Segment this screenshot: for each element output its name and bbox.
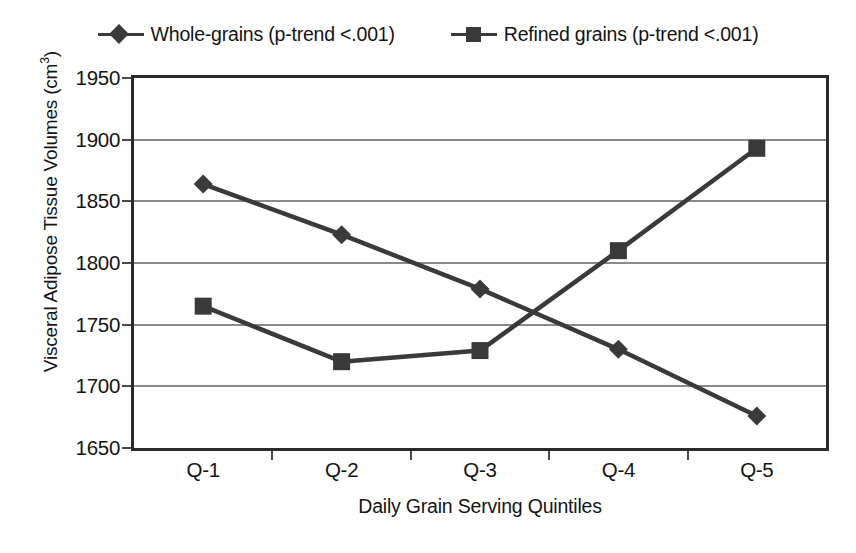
y-tick-mark-1900 [122, 139, 131, 141]
data-point-square [472, 342, 489, 359]
chart-legend: Whole-grains (p-trend <.001) Refined gra… [0, 14, 856, 54]
y-axis-title-superscript: 3 [38, 57, 52, 63]
data-point-square [195, 298, 212, 315]
legend-label-refined-grains: Refined grains (p-trend <.001) [504, 23, 759, 46]
data-point-diamond [471, 279, 490, 298]
y-tick-mark-1950 [122, 77, 131, 79]
legend-diamond-marker-icon [98, 23, 144, 45]
square-marker-icon [466, 27, 481, 42]
y-tick-mark-1650 [122, 447, 131, 449]
data-point-diamond [194, 175, 213, 194]
series-refined-grains [195, 140, 766, 370]
x-tick-label-q-5: Q-5 [712, 458, 802, 482]
legend-entry-refined-grains: Refined grains (p-trend <.001) [451, 23, 759, 46]
diamond-marker-icon [109, 24, 129, 44]
series-line [203, 148, 757, 361]
plot-area [131, 75, 829, 451]
y-tick-mark-1850 [122, 200, 131, 202]
legend-square-marker-icon [451, 23, 497, 45]
data-point-diamond [747, 406, 766, 425]
y-axis-title: Visceral Adipose Tissue Volumes (cm3) [38, 12, 61, 412]
y-tick-mark-1800 [122, 262, 131, 264]
series-whole-grains [194, 175, 767, 426]
series-layer [134, 78, 826, 448]
y-tick-mark-1700 [122, 385, 131, 387]
series-line [203, 184, 757, 416]
x-tick-label-q-1: Q-1 [158, 458, 248, 482]
legend-entry-whole-grains: Whole-grains (p-trend <.001) [98, 23, 395, 46]
data-point-square [333, 353, 350, 370]
plot-inner [134, 78, 826, 448]
x-axis-title: Daily Grain Serving Quintiles [131, 495, 829, 518]
y-tick-label-1650: 1650 [40, 436, 120, 460]
y-tick-mark-1750 [122, 324, 131, 326]
legend-label-whole-grains: Whole-grains (p-trend <.001) [151, 23, 395, 46]
x-tick-label-q-4: Q-4 [573, 458, 663, 482]
data-point-diamond [609, 340, 628, 359]
y-axis-title-text: Visceral Adipose Tissue Volumes (cm [40, 64, 61, 372]
chart-figure: Whole-grains (p-trend <.001) Refined gra… [0, 0, 856, 553]
x-tick-label-q-2: Q-2 [297, 458, 387, 482]
y-axis-title-tail: ) [40, 51, 61, 57]
x-tick-label-q-3: Q-3 [435, 458, 525, 482]
data-point-square [610, 242, 627, 259]
x-axis-tick-labels: Q-1Q-2Q-3Q-4Q-5 [131, 458, 829, 488]
data-point-diamond [332, 225, 351, 244]
data-point-square [748, 140, 765, 157]
